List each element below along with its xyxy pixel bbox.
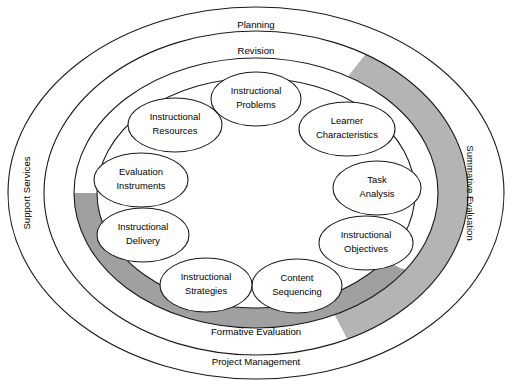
oval-label-line2: Sequencing — [272, 286, 322, 297]
core-oval-instructional-strategies[interactable]: Instructional Strategies — [160, 258, 252, 312]
core-oval-task-analysis[interactable]: Task Analysis — [333, 161, 421, 215]
ring-label-summative-evaluation: Summative Evaluation — [465, 145, 476, 240]
ring-label-planning: Planning — [237, 19, 274, 30]
oval-label-line2: Resources — [153, 125, 198, 136]
oval-label-line1: Instructional — [231, 85, 282, 96]
ring-label-formative-evaluation: Formative Evaluation — [211, 326, 301, 337]
oval-label-line1: Evaluation — [119, 166, 163, 177]
oval-label-line2: Delivery — [126, 235, 160, 246]
instructional-design-diagram: Planning Revision Formative Evaluation P… — [0, 0, 513, 386]
oval-label-line2: Problems — [236, 99, 276, 110]
oval-label-line1: Task — [367, 174, 387, 185]
core-oval-instructional-delivery[interactable]: Instructional Delivery — [97, 208, 189, 262]
oval-label-line1: Content — [281, 272, 314, 283]
core-oval-learner-characteristics[interactable]: Learner Characteristics — [299, 102, 395, 156]
oval-label-line2: Analysis — [360, 188, 395, 199]
oval-label-line2: Objectives — [344, 243, 388, 254]
ring-label-revision: Revision — [238, 45, 275, 56]
oval-label-line2: Characteristics — [316, 129, 378, 140]
oval-label-line1: Instructional — [181, 271, 232, 282]
core-oval-instructional-resources[interactable]: Instructional Resources — [128, 98, 222, 152]
oval-label-line2: Strategies — [185, 285, 228, 296]
oval-label-line1: Instructional — [118, 221, 169, 232]
model-canvas: Planning Revision Formative Evaluation P… — [0, 0, 513, 386]
core-oval-content-sequencing[interactable]: Content Sequencing — [252, 259, 342, 313]
oval-label-line2: Instruments — [117, 180, 166, 191]
core-oval-instructional-objectives[interactable]: Instructional Objectives — [319, 216, 413, 270]
oval-label-line1: Instructional — [341, 229, 392, 240]
ring-label-support-services: Support Services — [21, 156, 32, 229]
ring-label-project-management: Project Management — [212, 356, 301, 367]
oval-label-line1: Learner — [331, 115, 363, 126]
core-oval-instructional-problems[interactable]: Instructional Problems — [211, 72, 301, 126]
oval-label-line1: Instructional — [150, 111, 201, 122]
core-oval-evaluation-instruments[interactable]: Evaluation Instruments — [94, 153, 188, 207]
